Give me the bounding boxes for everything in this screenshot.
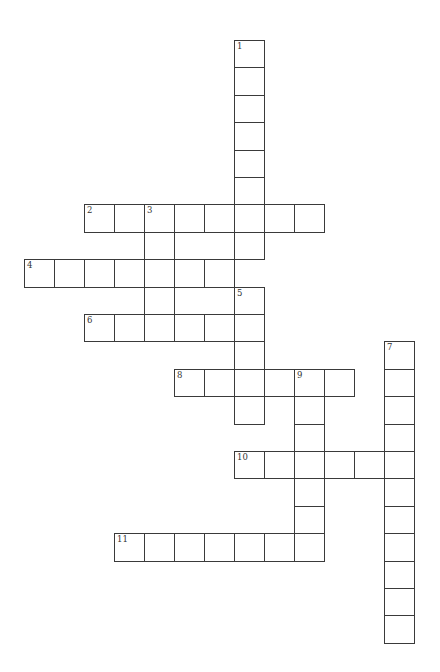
clue-number: 11 <box>117 535 128 544</box>
crossword-cell[interactable] <box>174 533 205 561</box>
crossword-cell[interactable] <box>114 204 145 232</box>
crossword-cell[interactable] <box>384 615 415 643</box>
crossword-cell[interactable] <box>264 204 295 232</box>
crossword-cell[interactable] <box>144 533 175 561</box>
clue-number: 6 <box>87 316 92 325</box>
crossword-cell[interactable] <box>234 67 265 95</box>
crossword-cell[interactable] <box>174 204 205 232</box>
crossword-cell[interactable] <box>384 396 415 424</box>
crossword-cell[interactable] <box>84 259 115 287</box>
crossword-cell[interactable] <box>204 259 235 287</box>
crossword-cell[interactable] <box>234 396 265 424</box>
crossword-cell[interactable]: 4 <box>24 259 55 287</box>
crossword-cell[interactable] <box>144 314 175 342</box>
crossword-cell[interactable] <box>234 314 265 342</box>
crossword-cell[interactable] <box>294 396 325 424</box>
crossword-cell[interactable] <box>234 204 265 232</box>
clue-number: 4 <box>27 261 32 270</box>
crossword-cell[interactable] <box>384 369 415 397</box>
crossword-cell[interactable] <box>174 314 205 342</box>
crossword-cell[interactable]: 11 <box>114 533 145 561</box>
crossword-cell[interactable] <box>324 451 355 479</box>
crossword-cell[interactable] <box>384 588 415 616</box>
crossword-cell[interactable] <box>294 451 325 479</box>
clue-number: 9 <box>297 371 302 380</box>
crossword-cell[interactable] <box>204 314 235 342</box>
clue-number: 5 <box>237 289 242 298</box>
crossword-cell[interactable]: 8 <box>174 369 205 397</box>
crossword-cell[interactable] <box>174 259 205 287</box>
crossword-cell[interactable] <box>324 369 355 397</box>
crossword-cell[interactable] <box>234 533 265 561</box>
crossword-cell[interactable] <box>294 424 325 452</box>
crossword-cell[interactable] <box>234 122 265 150</box>
crossword-cell[interactable] <box>384 424 415 452</box>
clue-number: 1 <box>237 42 242 51</box>
crossword-cell[interactable] <box>294 533 325 561</box>
crossword-cell[interactable]: 3 <box>144 204 175 232</box>
crossword-cell[interactable] <box>264 533 295 561</box>
crossword-cell[interactable] <box>384 451 415 479</box>
crossword-cell[interactable] <box>384 506 415 534</box>
crossword-cell[interactable]: 6 <box>84 314 115 342</box>
crossword-cell[interactable] <box>264 369 295 397</box>
crossword-cell[interactable]: 1 <box>234 40 265 68</box>
crossword-cell[interactable] <box>234 232 265 260</box>
crossword-cell[interactable]: 7 <box>384 341 415 369</box>
clue-number: 8 <box>177 371 182 380</box>
crossword-grid: 1234567891011 <box>0 0 440 672</box>
crossword-cell[interactable] <box>294 506 325 534</box>
crossword-cell[interactable] <box>384 478 415 506</box>
crossword-cell[interactable] <box>144 259 175 287</box>
crossword-cell[interactable] <box>144 232 175 260</box>
clue-number: 3 <box>147 206 152 215</box>
crossword-cell[interactable] <box>354 451 385 479</box>
crossword-cell[interactable] <box>234 369 265 397</box>
crossword-cell[interactable] <box>384 561 415 589</box>
crossword-cell[interactable] <box>264 451 295 479</box>
clue-number: 7 <box>387 343 392 352</box>
crossword-cell[interactable]: 9 <box>294 369 325 397</box>
crossword-cell[interactable] <box>294 204 325 232</box>
crossword-cell[interactable] <box>234 95 265 123</box>
crossword-cell[interactable] <box>384 533 415 561</box>
crossword-cell[interactable] <box>144 287 175 315</box>
crossword-cell[interactable] <box>204 204 235 232</box>
crossword-cell[interactable] <box>114 259 145 287</box>
crossword-cell[interactable] <box>234 177 265 205</box>
crossword-cell[interactable]: 10 <box>234 451 265 479</box>
crossword-cell[interactable] <box>204 533 235 561</box>
crossword-cell[interactable] <box>294 478 325 506</box>
crossword-cell[interactable] <box>234 341 265 369</box>
clue-number: 10 <box>237 453 248 462</box>
crossword-cell[interactable] <box>54 259 85 287</box>
clue-number: 2 <box>87 206 92 215</box>
crossword-cell[interactable] <box>114 314 145 342</box>
crossword-cell[interactable] <box>234 150 265 178</box>
crossword-cell[interactable] <box>204 369 235 397</box>
crossword-cell[interactable]: 2 <box>84 204 115 232</box>
crossword-cell[interactable]: 5 <box>234 287 265 315</box>
